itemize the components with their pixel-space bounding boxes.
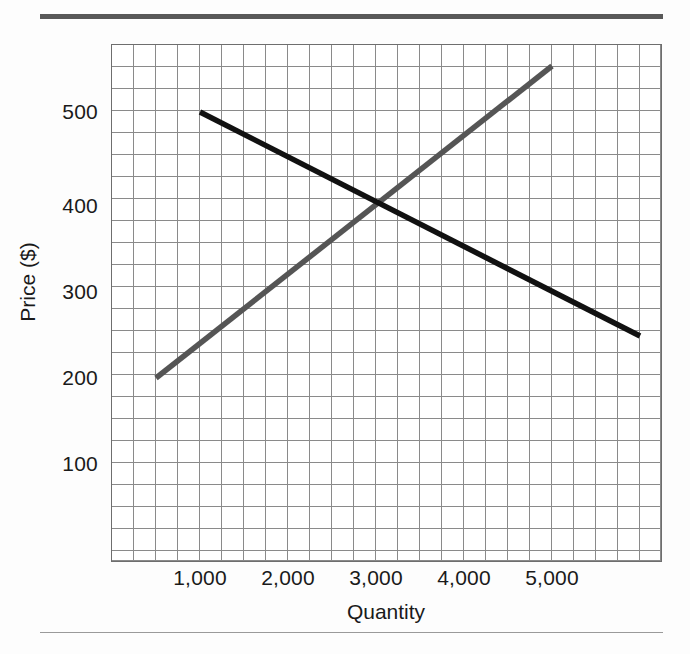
y-tick-label-500: 500 — [12, 100, 98, 124]
x-tick-label-5000: 5,000 — [502, 566, 602, 590]
supply-demand-chart: 500 400 300 200 100 1,000 2,000 3,000 4,… — [0, 0, 690, 654]
figure-page: 500 400 300 200 100 1,000 2,000 3,000 4,… — [0, 0, 690, 654]
bottom-rule-divider — [40, 632, 663, 633]
x-tick-label-2000: 2,000 — [238, 566, 338, 590]
y-tick-label-100: 100 — [12, 452, 98, 476]
y-tick-label-200: 200 — [12, 366, 98, 390]
x-axis-title: Quantity — [236, 600, 536, 624]
x-tick-label-3000: 3,000 — [326, 566, 426, 590]
plot-grid-area — [111, 44, 662, 562]
y-axis-title: Price ($) — [16, 212, 40, 352]
x-tick-label-1000: 1,000 — [150, 566, 250, 590]
x-tick-label-4000: 4,000 — [414, 566, 514, 590]
